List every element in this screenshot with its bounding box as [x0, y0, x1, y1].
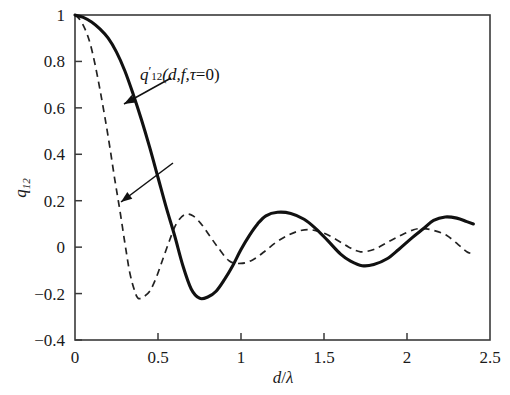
y-tick-label: 0	[57, 238, 66, 257]
y-axis-tick-labels: 10.80.60.40.20−0.2−0.4	[34, 6, 65, 350]
y-tick-label: 0.2	[44, 192, 65, 211]
y-axis-ticks	[75, 61, 82, 340]
x-tick-label: 2	[403, 348, 412, 367]
y-tick-label: 0.4	[44, 145, 66, 164]
y-tick-label: 0.8	[44, 52, 65, 71]
annotation-tau-zero: q′12(d,f,τ=0)	[124, 63, 220, 104]
y-tick-label: 0.6	[44, 99, 65, 118]
x-axis-tick-labels: 00.511.522.5	[71, 348, 501, 367]
x-tick-label: 0	[71, 348, 80, 367]
y-tick-label: 1	[57, 6, 66, 25]
y-tick-label: −0.2	[34, 285, 65, 304]
x-axis-title: d/λ	[273, 368, 294, 387]
y-tick-label: −0.4	[34, 331, 65, 350]
x-tick-label: 0.5	[147, 348, 168, 367]
annotation-label-tau-zero: q′12(d,f,τ=0)	[140, 63, 220, 84]
annotation-arrowhead-tau-d-over-c: q′12(d,f,τ= d c )	[121, 192, 132, 202]
annotation-tau-d-over-c: q′12(d,f,τ= d c )	[121, 163, 173, 202]
x-axis-ticks	[158, 333, 407, 340]
chart-figure: 10.80.60.40.20−0.2−0.4 00.511.522.5 q12 …	[0, 0, 510, 395]
y-axis-title: q12	[11, 178, 32, 198]
series-line-tau-d-over-c	[75, 15, 473, 299]
x-tick-label: 2.5	[479, 348, 500, 367]
x-tick-label: 1	[237, 348, 246, 367]
plot-frame	[75, 15, 490, 340]
x-tick-label: 1.5	[313, 348, 334, 367]
series-line-tau-zero	[75, 15, 473, 299]
